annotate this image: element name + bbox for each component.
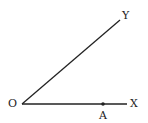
label-o: O (8, 98, 17, 109)
label-y: Y (122, 10, 129, 21)
label-x: X (130, 98, 138, 109)
point-a (101, 102, 105, 106)
ray-oy (22, 20, 120, 104)
label-a: A (99, 110, 107, 121)
